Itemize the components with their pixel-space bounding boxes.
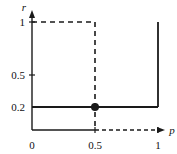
labels-group: r p 1 0.5 0.2 0 0.5 1 bbox=[11, 1, 175, 151]
x-tick-label-1: 1 bbox=[155, 139, 161, 151]
x-tick-label-0: 0 bbox=[29, 139, 35, 151]
equilibrium-point-marker bbox=[91, 103, 99, 111]
plot-canvas: r p 1 0.5 0.2 0 0.5 1 bbox=[0, 0, 177, 154]
guide-lines-group bbox=[32, 22, 95, 130]
y-axis-arrow-icon bbox=[29, 10, 35, 18]
y-tick-label-05: 0.5 bbox=[11, 69, 25, 81]
axes-group bbox=[29, 10, 165, 133]
y-tick-label-1: 1 bbox=[20, 16, 26, 28]
y-axis-label: r bbox=[22, 1, 27, 13]
x-tick-label-05: 0.5 bbox=[88, 139, 102, 151]
y-tick-label-02: 0.2 bbox=[11, 101, 25, 113]
x-axis-label: p bbox=[168, 124, 175, 136]
tick-marks-group bbox=[29, 22, 158, 133]
chart-figure: r p 1 0.5 0.2 0 0.5 1 bbox=[0, 0, 177, 154]
